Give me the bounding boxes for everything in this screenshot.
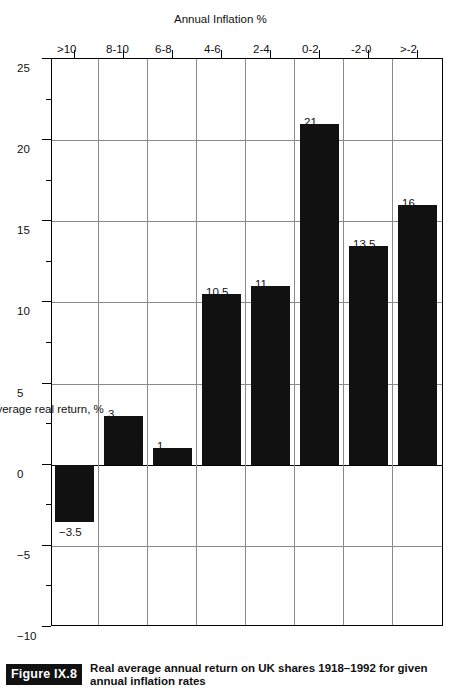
value-minor-tick (46, 261, 51, 262)
bar-2-4[interactable] (251, 286, 289, 465)
value-tick-25 (42, 58, 51, 59)
category-axis-label->-2: >-2 (401, 44, 418, 56)
category-tick-6-8 (173, 50, 174, 58)
category-tick->-2 (418, 50, 419, 58)
category-separator (147, 59, 148, 625)
value-minor-tick (46, 423, 51, 424)
value-minor-tick (46, 342, 51, 343)
value-axis-label--10: −10 (17, 631, 37, 643)
value-tick-20 (42, 139, 51, 140)
bar-value-label-2-4: 11 (256, 279, 268, 291)
gridline--5 (52, 546, 442, 547)
figure-canvas: 1613.5211110.513−3.52520151050−5−10Avera… (0, 0, 453, 694)
value-minor-tick (46, 504, 51, 505)
category-tick-2-4 (271, 50, 272, 58)
bar-value-label-0-2: 21 (305, 117, 318, 129)
value-minor-tick (46, 99, 51, 100)
category-axis-label-0-2: 0-2 (303, 44, 320, 56)
category-axis-label-8-10: 8-10 (107, 44, 130, 56)
category-separator (294, 59, 295, 625)
value-axis-label-20: 20 (17, 144, 30, 156)
category-tick-4-6 (222, 50, 223, 58)
value-axis-label-5: 5 (17, 388, 23, 400)
value-minor-tick (46, 585, 51, 586)
value-axis-label-0: 0 (17, 469, 23, 481)
bar-4-6[interactable] (202, 294, 240, 464)
value-axis-title: Average real return, % (0, 404, 104, 416)
value-tick-15 (42, 220, 51, 221)
bar->10[interactable] (55, 465, 93, 522)
category-axis-label-2-4: 2-4 (254, 44, 271, 56)
category-separator (98, 59, 99, 625)
figure-number: Figure IX.8 (6, 664, 82, 685)
bar-value-label--2-0: 13.5 (354, 239, 376, 251)
bar-value-label-4-6: 10.5 (207, 287, 229, 299)
category-separator (343, 59, 344, 625)
bar--2-0[interactable] (349, 246, 387, 465)
gridline-20 (52, 140, 442, 141)
value-tick-10 (42, 301, 51, 302)
value-tick-0 (42, 464, 51, 465)
figure-caption: Figure IX.8 Real average annual return o… (6, 662, 447, 688)
category-tick-0-2 (320, 50, 321, 58)
category-axis-label-6-8: 6-8 (156, 44, 173, 56)
figure-caption-text: Real average annual return on UK shares … (90, 662, 447, 688)
bar-chart: 1613.5211110.513−3.52520151050−5−10Avera… (0, 0, 453, 626)
category-axis-title: Annual Inflation % (175, 14, 268, 26)
category-separator (196, 59, 197, 625)
bar-8-10[interactable] (104, 416, 142, 465)
bar-value-label-6-8: 1 (158, 441, 164, 453)
zero-axis-line (52, 465, 442, 466)
category-separator (392, 59, 393, 625)
value-axis-label--5: −5 (17, 550, 30, 562)
category-separator (245, 59, 246, 625)
value-axis-label-25: 25 (17, 63, 30, 75)
plot-area (51, 58, 443, 626)
value-minor-tick (46, 180, 51, 181)
value-tick--10 (42, 626, 51, 627)
gridline-15 (52, 221, 442, 222)
value-axis-label-15: 15 (17, 225, 30, 237)
category-axis-label->10: >10 (58, 44, 78, 56)
bar-value-label->10: −3.5 (60, 527, 83, 539)
value-tick--5 (42, 545, 51, 546)
bar-value-label->-2: 16 (403, 198, 416, 210)
category-axis-label-4-6: 4-6 (205, 44, 222, 56)
value-tick-5 (42, 383, 51, 384)
category-axis-label--2-0: -2-0 (352, 44, 372, 56)
bar-0-2[interactable] (300, 124, 338, 465)
bar->-2[interactable] (398, 205, 436, 465)
bar-value-label-8-10: 3 (109, 409, 115, 421)
value-axis-label-10: 10 (17, 306, 30, 318)
